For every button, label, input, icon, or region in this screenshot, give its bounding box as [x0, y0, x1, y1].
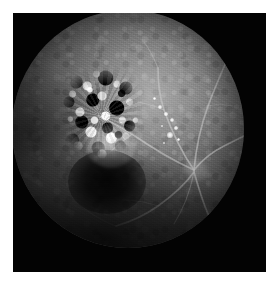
lesion-fine-speckles [39, 51, 165, 182]
hyperfluorescent-dot [163, 142, 166, 145]
modality-label: Fluorescein angiography [0, 0, 1, 1]
vessel-segment [174, 172, 194, 224]
vessel-segment [194, 62, 226, 170]
vessel-segment [158, 68, 194, 170]
vessel-segment [122, 200, 158, 206]
vessel-segment [108, 134, 132, 154]
lesion-hyperfluorescent-speckles [56, 66, 148, 166]
vessel-segment [144, 42, 158, 68]
lesion-hypofluorescent-speckles [56, 66, 148, 166]
optic-disc [182, 158, 208, 182]
fundus-disc [13, 13, 244, 248]
vessel-segment [84, 208, 116, 226]
hyperfluorescent-dot [164, 112, 167, 115]
hyperfluorescent-dot [170, 118, 175, 123]
vessel-segment [116, 172, 194, 226]
vessel-segment [68, 110, 98, 116]
vessel-paths [68, 42, 244, 248]
hyperfluorescent-dot [158, 105, 162, 109]
vessel-segment [198, 246, 226, 248]
circle-vignette [13, 13, 244, 248]
eye-view-label: Retinal fundus [0, 0, 1, 1]
hyperfluorescent-dot [161, 125, 164, 128]
vessel-segment [98, 116, 194, 170]
macula-shadow [68, 150, 146, 214]
hyperfluorescent-dot [153, 97, 156, 100]
vessel-segment [194, 172, 226, 246]
page-root: Fluorescein angiography Retinal fundus [0, 0, 280, 289]
vessel-segment [208, 105, 232, 107]
image-grain [13, 13, 244, 248]
hyperfluorescent-dot [177, 138, 180, 141]
figure-caption [0, 0, 1, 1]
vessel-segment [194, 132, 244, 170]
choroidal-mottle-texture [13, 13, 244, 248]
peripheral-rim-glow [13, 13, 244, 248]
retinal-vessel-tree [13, 13, 244, 248]
hyperfluorescent-dot [174, 126, 178, 130]
lesion-bright-core [86, 124, 136, 168]
angiogram-frame [13, 13, 266, 272]
vessel-segment [138, 102, 164, 110]
inferior-shadow [13, 13, 244, 248]
hyperfluorescent-lesion [56, 66, 148, 166]
hyperfluorescent-dot [167, 132, 172, 137]
